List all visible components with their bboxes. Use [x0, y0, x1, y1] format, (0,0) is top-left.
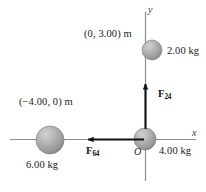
coord-label-6kg: (−4.00, 0) m	[19, 97, 73, 108]
coord-label-2kg: (0, 3.00) m	[84, 29, 132, 40]
physics-diagram: (0, 3.00) m 2.00 kg (−4.00, 0) m 6.00 kg…	[0, 0, 206, 192]
force-64-subscript: 64	[92, 150, 99, 158]
x-axis-label: x	[192, 128, 196, 138]
force-64-label: F64	[86, 146, 99, 157]
origin-label: O	[134, 147, 141, 157]
force-24-label: F24	[158, 89, 171, 100]
particle-6kg-sphere	[36, 126, 64, 154]
particle-2kg-sphere	[142, 40, 162, 60]
y-axis-label: y	[148, 5, 152, 15]
mass-label-2kg: 2.00 kg	[167, 46, 199, 57]
mass-label-4kg: 4.00 kg	[159, 146, 191, 157]
force-24-subscript: 24	[164, 93, 171, 101]
mass-label-6kg: 6.00 kg	[26, 160, 58, 171]
